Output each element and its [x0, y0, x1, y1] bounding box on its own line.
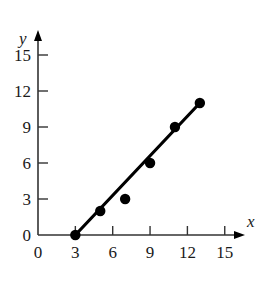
data-point	[195, 98, 205, 108]
x-tick-label: 15	[216, 243, 233, 262]
axes: xy	[17, 29, 255, 239]
ticks: 0369121503691215	[14, 46, 233, 262]
data-point	[145, 158, 155, 168]
x-axis-label: x	[246, 212, 255, 231]
x-tick-label: 3	[71, 243, 80, 262]
x-tick-label: 9	[146, 243, 155, 262]
x-axis-arrow-icon	[234, 231, 245, 239]
scatter-chart: xy 0369121503691215	[0, 0, 268, 281]
data-point	[95, 206, 105, 216]
x-tick-label: 0	[34, 243, 43, 262]
fit-line	[75, 103, 200, 235]
data-point	[120, 194, 130, 204]
data-point	[70, 230, 80, 240]
regression-line	[75, 103, 200, 235]
data-point	[170, 122, 180, 132]
x-tick-label: 12	[179, 243, 196, 262]
y-tick-label: 9	[23, 118, 32, 137]
y-axis-arrow-icon	[34, 30, 42, 41]
y-tick-label: 0	[23, 226, 32, 245]
y-tick-label: 3	[23, 190, 32, 209]
y-tick-label: 6	[23, 154, 32, 173]
y-tick-label: 12	[14, 82, 31, 101]
x-tick-label: 6	[108, 243, 117, 262]
y-tick-label: 15	[14, 46, 31, 65]
